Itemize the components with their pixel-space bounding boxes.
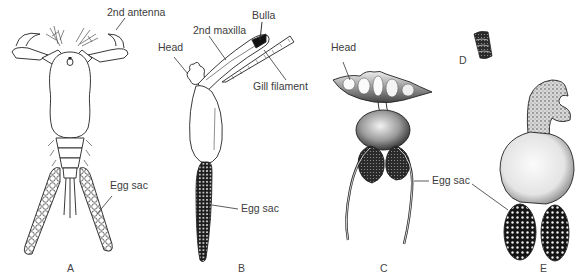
label-egg-sac-a: Egg sac	[110, 180, 148, 191]
label-egg-sac-b: Egg sac	[241, 203, 279, 214]
panel-letter-c: C	[380, 263, 388, 274]
specimen-b	[174, 22, 294, 262]
label-gill-filament: Gill filament	[253, 81, 308, 92]
label-bulla: Bulla	[252, 10, 275, 21]
label-2nd-antenna: 2nd antenna	[107, 7, 165, 18]
panel-letter-a: A	[67, 263, 74, 274]
panel-letter-d: D	[459, 55, 467, 66]
label-egg-sac-c: Egg sac	[432, 175, 470, 186]
specimen-a	[12, 18, 128, 254]
copepod-figure: 2nd antenna Egg sac A Head 2nd maxilla B…	[0, 0, 585, 280]
specimen-c	[333, 62, 432, 244]
specimen-d	[474, 31, 492, 58]
label-2nd-maxilla: 2nd maxilla	[193, 25, 246, 36]
illustration-drawings	[0, 0, 585, 280]
label-head-b: Head	[158, 42, 183, 53]
label-head-c: Head	[331, 42, 356, 53]
panel-letter-e: E	[540, 263, 547, 274]
specimen-e	[472, 80, 574, 261]
panel-letter-b: B	[238, 263, 245, 274]
